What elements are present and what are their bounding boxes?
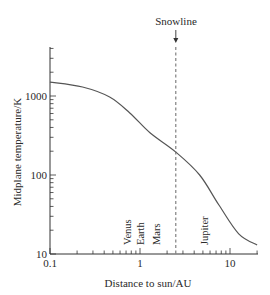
y-tick-label: 1000 xyxy=(25,90,48,102)
y-tick-label: 10 xyxy=(36,248,48,260)
temperature-line xyxy=(50,82,257,245)
annotations: VenusEarthMarsJupiter xyxy=(122,30,210,254)
chart: 0.1110101001000 VenusEarthMarsJupiter Di… xyxy=(0,0,270,295)
y-axis-label: Midplane temperature/K xyxy=(11,98,23,206)
arrow-down-icon xyxy=(173,38,178,43)
y-tick-label: 100 xyxy=(31,169,48,181)
snowline-label: Snowline xyxy=(155,15,197,27)
planet-label-earth: Earth xyxy=(135,222,146,245)
x-tick-label: 10 xyxy=(225,257,237,269)
temperature-curve xyxy=(50,82,257,245)
planet-label-venus: Venus xyxy=(122,219,133,245)
planet-label-jupiter: Jupiter xyxy=(199,216,210,245)
x-axis-label: Distance to sun/AU xyxy=(105,277,192,289)
planet-label-mars: Mars xyxy=(151,223,162,245)
x-tick-label: 1 xyxy=(137,257,143,269)
